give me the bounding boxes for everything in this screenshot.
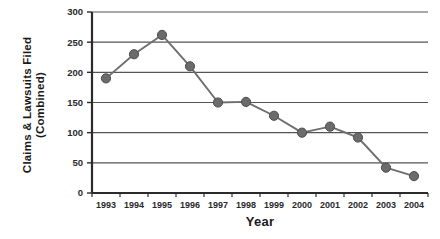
data-point <box>101 74 110 83</box>
x-axis-tick-label: 1997 <box>208 200 228 210</box>
data-series-markers <box>101 30 418 180</box>
data-point <box>269 111 278 120</box>
y-axis-tick-label: 250 <box>67 37 83 48</box>
data-point <box>185 62 194 71</box>
y-axis-tick-label: 100 <box>67 127 83 138</box>
x-axis-title: Year <box>92 214 428 229</box>
x-axis-tick-labels: 1993199419951996199719981999200020012002… <box>96 200 424 210</box>
data-point <box>409 172 418 181</box>
x-axis-tick-label: 1994 <box>124 200 144 210</box>
x-axis-tick-label: 1995 <box>152 200 172 210</box>
x-axis-tick-label: 1996 <box>180 200 200 210</box>
x-axis-tick-label: 1999 <box>264 200 284 210</box>
data-point <box>353 133 362 142</box>
x-axis-tick-label: 1998 <box>236 200 256 210</box>
data-point <box>129 50 138 59</box>
gridlines <box>92 12 428 193</box>
x-axis-tick-label: 2004 <box>404 200 424 210</box>
data-point <box>241 97 250 106</box>
y-axis-tick-label: 0 <box>78 187 83 198</box>
y-axis-tick-label: 200 <box>67 67 83 78</box>
y-axis-tick-labels: 050100150200250300 <box>67 6 83 198</box>
plot-area: 050100150200250300 199319941995199619971… <box>0 0 440 239</box>
data-point <box>213 98 222 107</box>
data-point <box>157 30 166 39</box>
line-chart: Claims & Lawsuits Filed (Combined) 05010… <box>0 0 440 239</box>
x-axis-tick-label: 2003 <box>376 200 396 210</box>
y-axis-tick-label: 150 <box>67 97 83 108</box>
data-point <box>297 128 306 137</box>
data-point <box>325 122 334 131</box>
x-axis-tick-label: 2002 <box>348 200 368 210</box>
data-series-line <box>106 35 414 176</box>
x-axis-tick-label: 1993 <box>96 200 116 210</box>
x-axis-tick-label: 2000 <box>292 200 312 210</box>
y-axis-tick-label: 300 <box>67 6 83 17</box>
data-point <box>381 163 390 172</box>
x-axis-tick-label: 2001 <box>320 200 340 210</box>
y-axis-tick-label: 50 <box>72 157 83 168</box>
